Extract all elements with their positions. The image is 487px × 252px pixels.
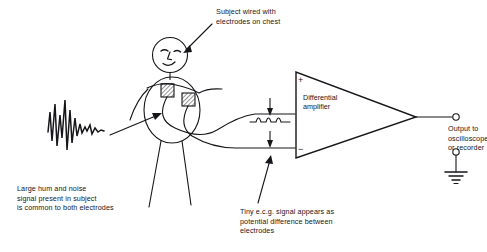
- subject-arrow-head: [183, 45, 192, 53]
- caption-ecg-signal: Tiny e.c.g. signal appears as potential …: [240, 207, 334, 236]
- amplifier-label: Differential amplifier: [303, 93, 337, 112]
- caption-output: Output to oscilloscope or recorder: [448, 124, 487, 153]
- annotation-arrows: [110, 24, 273, 203]
- right-leg: [182, 141, 191, 205]
- ecg-pointer-arrow-icon: [258, 160, 270, 203]
- down-arrow-lower-head: [267, 140, 273, 148]
- caption-subject: Subject wired with electrodes on chest: [216, 7, 280, 26]
- head-outline: [153, 38, 188, 73]
- ecg-differential-amplifier-figure: Subject wired with electrodes on chest L…: [0, 0, 487, 252]
- potential-difference-arrows: [267, 98, 273, 148]
- caption-noise: Large hum and noise signal present in su…: [17, 184, 114, 213]
- electrode-patches: [161, 84, 195, 106]
- electrode-patch-left-icon: [161, 84, 174, 97]
- left-eye-icon: [161, 50, 168, 51]
- down-arrow-upper-head: [267, 108, 273, 116]
- lead-wire-to-minus-input: [184, 106, 295, 148]
- right-eye-icon: [174, 50, 181, 51]
- subject-stick-figure: [130, 38, 222, 208]
- ecg-arrow-head: [265, 155, 273, 164]
- amplifier-minus-input-label: −: [298, 145, 303, 154]
- left-leg: [149, 141, 161, 207]
- right-arm: [172, 84, 222, 93]
- nose-icon: [168, 52, 172, 60]
- terminal-post-top-icon: [453, 114, 459, 120]
- noise-waveform-icon: [48, 100, 104, 150]
- amplifier-plus-input-label: +: [298, 76, 303, 85]
- electrode-patch-right-icon: [182, 93, 195, 106]
- ecg-waveform-icon: [250, 118, 290, 122]
- triangle-amplifier-icon: [296, 72, 416, 158]
- earth-ground-icon: [445, 172, 467, 184]
- noise-arrow-head: [152, 113, 162, 120]
- mouth-icon: [163, 62, 175, 65]
- left-arm: [130, 89, 148, 120]
